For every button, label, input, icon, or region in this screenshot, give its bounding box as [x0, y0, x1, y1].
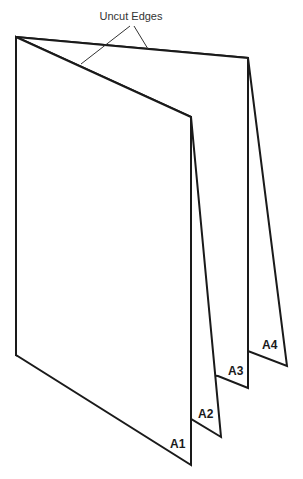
- uncut-edges-label: Uncut Edges: [100, 10, 163, 22]
- page-label-a2: A2: [198, 407, 214, 421]
- leader-line-right: [134, 26, 148, 49]
- page-label-a4: A4: [262, 338, 278, 352]
- page-label-a1: A1: [170, 437, 186, 451]
- folded-booklet-diagram: Uncut Edges A1 A2 A3 A4: [0, 0, 303, 479]
- page-label-a3: A3: [228, 364, 244, 378]
